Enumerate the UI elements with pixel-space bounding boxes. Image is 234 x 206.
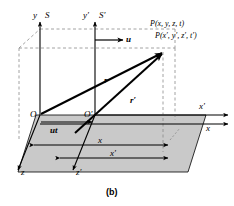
ut-label: ut xyxy=(50,126,58,135)
y-prime-axis-label: y′ xyxy=(83,11,89,20)
r-vector xyxy=(41,53,162,114)
z-axis-label: z xyxy=(21,168,25,177)
x-axis-label: x xyxy=(206,124,210,133)
z-prime-axis-label: z′ xyxy=(76,168,81,177)
velocity-label: u xyxy=(126,35,131,44)
figure-caption: (b) xyxy=(106,188,118,197)
frame-s-prime-label: S′ xyxy=(99,11,105,20)
r-vector-label: r xyxy=(104,76,108,85)
point-p-primed-label: P(x′, y′, z′, t′) xyxy=(155,32,197,40)
r-prime-vector-label: r′ xyxy=(130,96,136,105)
origin-o-label: O xyxy=(30,110,37,119)
x-span-label: x xyxy=(98,136,102,145)
point-p-unprimed-label: P(x, y, z, t) xyxy=(150,20,184,28)
frame-s-label: S xyxy=(45,11,50,20)
y-axis-label: y xyxy=(33,11,37,20)
figure-container: y S y′ S′ u P(x, y, z, t) P(x′, y′, z′, … xyxy=(0,0,234,206)
x-prime-axis-label: x′ xyxy=(199,102,205,111)
origin-o-prime-label: O′ xyxy=(84,110,92,119)
x-prime-span-label: x′ xyxy=(110,149,116,158)
